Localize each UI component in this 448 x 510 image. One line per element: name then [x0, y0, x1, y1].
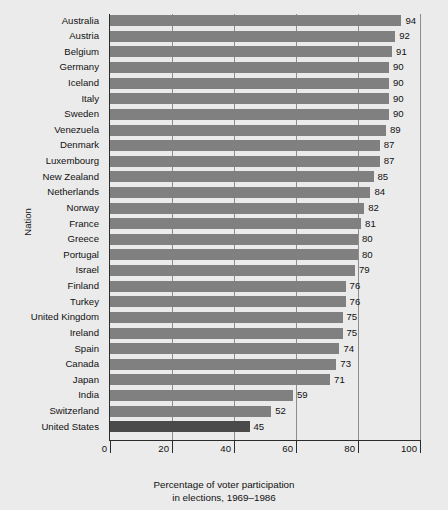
chart-row: Canada73: [0, 358, 448, 374]
category-label: New Zealand: [42, 171, 99, 183]
bar: [110, 281, 346, 292]
category-label: Turkey: [70, 296, 99, 308]
bar: [110, 187, 370, 198]
chart-row: Greece80: [0, 233, 448, 249]
bar: [110, 296, 346, 307]
bar: [110, 390, 293, 401]
bar-value-label: 94: [405, 15, 416, 27]
bar-value-label: 87: [384, 155, 395, 167]
category-label: Spain: [74, 343, 99, 355]
category-label: Netherlands: [47, 186, 99, 198]
bar: [110, 249, 358, 260]
category-label: Australia: [62, 15, 99, 27]
category-label: United Kingdom: [31, 311, 99, 323]
bar: [110, 312, 343, 323]
category-label: France: [69, 218, 99, 230]
bar: [110, 234, 358, 245]
chart-row: Ireland75: [0, 326, 448, 342]
category-label: Iceland: [68, 77, 99, 89]
bar: [110, 171, 374, 182]
x-tick-mark-100: [420, 441, 421, 453]
chart-row: Venezuela89: [0, 123, 448, 139]
chart-row: Japan71: [0, 373, 448, 389]
bar-value-label: 75: [347, 311, 358, 323]
bar: [110, 265, 355, 276]
bar: [110, 343, 339, 354]
x-axis-caption-line1: Percentage of voter participation: [0, 478, 448, 491]
bar-value-label: 73: [340, 358, 351, 370]
category-label: Japan: [73, 374, 99, 386]
x-axis-line: [110, 440, 421, 441]
bar: [110, 421, 250, 432]
x-tick-label-20: 20: [141, 443, 169, 454]
chart-row: Israel79: [0, 264, 448, 280]
category-label: Greece: [68, 233, 99, 245]
chart-row: Iceland90: [0, 76, 448, 92]
bar: [110, 203, 364, 214]
bar-value-label: 76: [350, 280, 361, 292]
category-label: Venezuela: [54, 124, 99, 136]
bar-value-label: 75: [347, 327, 358, 339]
chart-row: Belgium91: [0, 45, 448, 61]
x-tick-label-60: 60: [265, 443, 293, 454]
bar-value-label: 80: [362, 249, 373, 261]
bar: [110, 374, 330, 385]
chart-row: United States45: [0, 420, 448, 436]
chart-row: Spain74: [0, 342, 448, 358]
bar-value-label: 79: [359, 264, 370, 276]
x-tick-mark-20: [172, 441, 173, 453]
category-label: Sweden: [64, 108, 99, 120]
chart-row: Luxembourg87: [0, 155, 448, 171]
category-label: Germany: [60, 61, 99, 73]
x-tick-label-80: 80: [327, 443, 355, 454]
chart-row: France81: [0, 217, 448, 233]
chart-row: Portugal80: [0, 248, 448, 264]
bar: [110, 406, 271, 417]
category-label: Canada: [65, 358, 99, 370]
bar-value-label: 90: [393, 93, 404, 105]
bar: [110, 109, 389, 120]
bar-value-label: 59: [297, 389, 308, 401]
category-label: Switzerland: [49, 405, 99, 417]
x-tick-mark-60: [296, 441, 297, 453]
bar-value-label: 90: [393, 108, 404, 120]
chart-row: Italy90: [0, 92, 448, 108]
category-label: Finland: [68, 280, 99, 292]
category-label: India: [78, 389, 99, 401]
bar-value-label: 76: [350, 296, 361, 308]
x-axis-caption-line2: in elections, 1969–1986: [0, 491, 448, 504]
bar: [110, 140, 380, 151]
chart-row: Austria92: [0, 30, 448, 46]
bar-value-label: 84: [374, 186, 385, 198]
chart-row: Sweden90: [0, 108, 448, 124]
bar: [110, 46, 392, 57]
chart-row: United Kingdom75: [0, 311, 448, 327]
bar-value-label: 85: [378, 171, 389, 183]
chart-row: Netherlands84: [0, 186, 448, 202]
bar: [110, 31, 395, 42]
chart-row: Denmark87: [0, 139, 448, 155]
bar-value-label: 45: [254, 421, 265, 433]
chart-row: Australia94: [0, 14, 448, 30]
chart-row: New Zealand85: [0, 170, 448, 186]
category-label: Portugal: [63, 249, 99, 261]
chart-row: Switzerland52: [0, 405, 448, 421]
chart-row: India59: [0, 389, 448, 405]
category-label: Denmark: [60, 139, 99, 151]
bar: [110, 125, 386, 136]
category-label: Italy: [81, 93, 99, 105]
chart-row: Germany90: [0, 61, 448, 77]
category-label: Norway: [66, 202, 99, 214]
chart-row: Finland76: [0, 280, 448, 296]
bar-value-label: 92: [399, 30, 410, 42]
bar-value-label: 91: [396, 46, 407, 58]
category-label: Belgium: [64, 46, 99, 58]
chart-row: Turkey76: [0, 295, 448, 311]
bar-value-label: 90: [393, 77, 404, 89]
x-tick-mark-40: [234, 441, 235, 453]
bar: [110, 15, 401, 26]
bar-chart-figure: Nation 020406080100Australia94Austria92B…: [0, 0, 448, 510]
bar: [110, 62, 389, 73]
bar: [110, 93, 389, 104]
category-label: Austria: [69, 30, 99, 42]
